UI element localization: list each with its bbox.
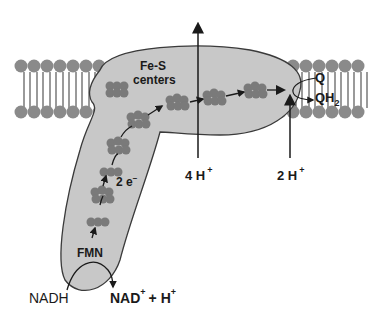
cluster-2 [166, 94, 190, 111]
complex-i-diagram: Fe-S centers Q QH2 2 e− FMN NADH NAD++ H… [0, 0, 373, 321]
nadh-label: NADH [29, 290, 69, 306]
fes-label-line1: Fe-S [140, 59, 166, 73]
cluster-3 [203, 89, 227, 106]
q-label: Q [315, 70, 325, 85]
cluster-1 [106, 82, 129, 98]
fes-label-line2: centers [133, 73, 176, 87]
cluster-4 [244, 82, 268, 99]
fmn-label: FMN [77, 246, 103, 260]
nad-plus-h-label: NAD++ H+ [110, 287, 176, 306]
four-protons-label: 4 H+ [185, 165, 213, 183]
fmn-cluster [87, 218, 110, 227]
two-protons-label: 2 H+ [277, 165, 305, 183]
